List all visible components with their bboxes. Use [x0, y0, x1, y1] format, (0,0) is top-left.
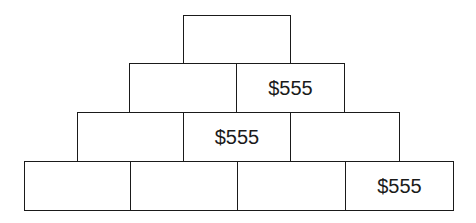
- brick-r4-c4: $555: [345, 161, 454, 211]
- brick-r2-c1: [129, 63, 237, 113]
- brick-r3-c1: [77, 112, 184, 162]
- brick-r4-c1: [24, 161, 131, 211]
- brick-r4-c3: [237, 161, 346, 211]
- brick-r1-c1: [183, 15, 291, 65]
- brick-r2-c2: $555: [236, 63, 345, 113]
- brick-r4-c2: [130, 161, 238, 211]
- brick-r3-c3: [290, 112, 400, 162]
- brick-r3-c2: $555: [183, 112, 291, 162]
